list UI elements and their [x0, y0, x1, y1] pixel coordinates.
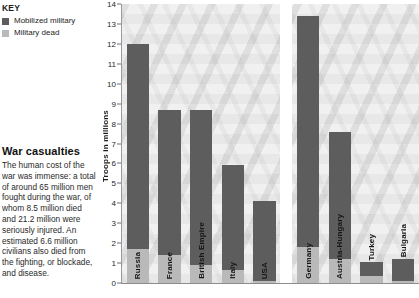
y-axis-tick-label: 8: [112, 119, 116, 128]
legend-items: Mobilized militaryMilitary dead: [2, 16, 98, 38]
bar-germany[interactable]: Germany: [297, 16, 319, 283]
y-axis-tick-label: 5: [112, 179, 116, 188]
bar-label: Russia: [133, 252, 142, 279]
bar-segment-military-dead: [392, 281, 414, 283]
chart-legend: KEY Mobilized militaryMilitary dead: [2, 3, 98, 40]
y-axis-tick-label: 14: [107, 0, 116, 9]
y-axis-tick-label: 7: [112, 139, 116, 148]
chart-area: Troops in millions 01234567891011121314 …: [100, 0, 419, 298]
y-axis-tick-mark: [117, 123, 121, 124]
bar-label: Austria-Hungary: [335, 214, 344, 279]
legend-item-label: Mobilized military: [14, 16, 75, 26]
caption-body: The human cost of the war was immense: a…: [2, 160, 97, 279]
bar-austria-hungary[interactable]: Austria-Hungary: [329, 132, 351, 283]
y-axis-tick-mark: [117, 183, 121, 184]
y-axis-line: [121, 4, 122, 283]
y-axis-tick-mark: [117, 143, 121, 144]
y-axis-tick-label: 3: [112, 219, 116, 228]
bar-label: Germany: [304, 243, 313, 279]
y-axis-tick-label: 9: [112, 99, 116, 108]
group-separator: [280, 4, 292, 283]
y-axis-tick-label: 0: [112, 279, 116, 288]
y-axis-tick-mark: [117, 63, 121, 64]
y-axis-tick-mark: [117, 23, 121, 24]
bar-label: British Empire: [197, 222, 206, 279]
y-axis-tick-label: 2: [112, 239, 116, 248]
y-axis-tick-mark: [117, 4, 121, 5]
bar-usa[interactable]: USA: [253, 201, 275, 283]
y-axis-tick-mark: [117, 243, 121, 244]
y-axis-tick-mark: [117, 203, 121, 204]
y-axis-tick-label: 12: [107, 39, 116, 48]
legend-item: Mobilized military: [2, 16, 98, 26]
bar-label: Bulgaria: [399, 224, 408, 257]
bar-italy[interactable]: Italy: [222, 165, 244, 283]
left-panel: KEY Mobilized militaryMilitary dead War …: [0, 0, 100, 298]
y-axis-tick-mark: [117, 43, 121, 44]
legend-item-label: Military dead: [14, 28, 59, 38]
legend-item: Military dead: [2, 28, 98, 38]
caption-title: War casualties: [2, 145, 97, 157]
x-axis-line: [121, 283, 419, 284]
caption-block: War casualties The human cost of the war…: [2, 145, 97, 279]
y-axis-tick-label: 13: [107, 19, 116, 28]
bar-france[interactable]: France: [158, 110, 180, 283]
plot-area: 01234567891011121314 RussiaFranceBritish…: [122, 4, 419, 283]
y-axis-tick-mark: [117, 223, 121, 224]
bar-segment-military-dead: [253, 281, 275, 283]
bar-segment-military-dead: [360, 276, 382, 283]
y-axis-tick-mark: [117, 263, 121, 264]
y-axis-tick-mark: [117, 283, 121, 284]
y-axis-tick-mark: [117, 103, 121, 104]
bar-bulgaria[interactable]: Bulgaria: [392, 259, 414, 283]
y-axis-tick-mark: [117, 163, 121, 164]
bar-label: Italy: [228, 262, 237, 279]
y-axis-title: Troops in millions: [101, 110, 110, 182]
bar-label: Turkey: [367, 234, 376, 261]
war-casualties-infographic: KEY Mobilized militaryMilitary dead War …: [0, 0, 419, 298]
bar-british-empire[interactable]: British Empire: [190, 110, 212, 283]
legend-swatch-icon: [2, 18, 9, 25]
bar-russia[interactable]: Russia: [127, 44, 149, 283]
y-axis-tick-label: 11: [108, 59, 116, 68]
y-axis-tick-label: 6: [112, 159, 116, 168]
bar-label: France: [165, 252, 174, 279]
y-axis-tick-mark: [117, 83, 121, 84]
bar-turkey[interactable]: Turkey: [360, 262, 382, 283]
legend-title: KEY: [2, 3, 98, 13]
y-axis-tick-label: 4: [112, 199, 116, 208]
bar-label: USA: [260, 262, 269, 279]
legend-swatch-icon: [2, 30, 9, 37]
y-axis-tick-label: 1: [112, 259, 116, 268]
y-axis-tick-label: 10: [107, 79, 116, 88]
